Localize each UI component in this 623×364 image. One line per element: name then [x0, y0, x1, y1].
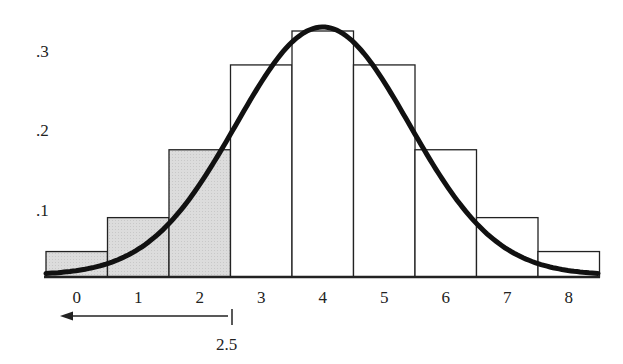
- cutoff-annotation: 2.5: [60, 309, 237, 354]
- y-tick-label: .1: [36, 201, 49, 220]
- x-tick-label: 0: [73, 288, 82, 307]
- x-tick-label: 6: [442, 288, 451, 307]
- x-tick-label: 7: [503, 288, 512, 307]
- bar: [231, 65, 293, 277]
- x-tick-label: 4: [319, 288, 328, 307]
- x-tick-label: 5: [380, 288, 389, 307]
- arrow-left-icon: [60, 312, 73, 321]
- y-tick-label: .3: [36, 42, 49, 61]
- y-tick-label: .2: [36, 121, 49, 140]
- x-tick-label: 2: [196, 288, 205, 307]
- bar: [354, 65, 416, 277]
- x-tick-labels: 012345678: [73, 288, 574, 307]
- bars: [46, 31, 600, 277]
- cutoff-label: 2.5: [216, 335, 237, 354]
- y-tick-labels: .1 .2 .3: [36, 42, 49, 220]
- bar: [292, 31, 354, 277]
- x-tick-label: 8: [565, 288, 574, 307]
- x-tick-label: 1: [134, 288, 143, 307]
- x-tick-label: 3: [257, 288, 266, 307]
- histogram-chart: 012345678 .1 .2 .3 2.5: [0, 0, 623, 364]
